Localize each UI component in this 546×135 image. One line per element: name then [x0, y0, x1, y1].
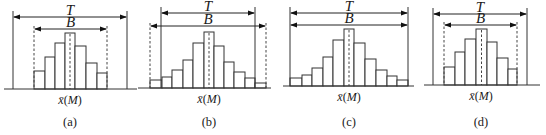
spread-B-dimension: B	[290, 10, 408, 28]
panel-caption: (b)	[202, 115, 217, 129]
histogram-bar	[497, 58, 508, 85]
histogram-bar	[444, 67, 455, 85]
histogram-bars	[150, 32, 266, 88]
panel-caption: (a)	[63, 115, 77, 129]
arrow-left-icon	[290, 22, 297, 27]
panel-caption: (c)	[342, 115, 356, 129]
histogram-bar	[302, 75, 312, 86]
histogram-bar	[172, 70, 183, 88]
histogram-bar	[75, 46, 86, 89]
mean-label: x̄(M)	[336, 90, 360, 104]
spread-B-label: B	[344, 10, 353, 26]
arrow-left-icon	[433, 11, 440, 16]
spread-B-label: B	[203, 11, 212, 27]
paren-close: )	[489, 89, 493, 103]
arrow-right-icon	[510, 22, 517, 27]
histogram-bar	[323, 57, 333, 86]
arrow-left-icon	[13, 14, 20, 19]
paren-close: )	[78, 93, 82, 107]
arrow-left-icon	[290, 10, 297, 15]
histogram-bar	[487, 42, 497, 85]
histogram-bar	[245, 78, 255, 88]
spread-B-label: B	[476, 10, 485, 26]
mean-label: x̄(M)	[196, 92, 220, 106]
histogram-bar	[55, 43, 65, 89]
histogram-bar	[508, 69, 517, 85]
histogram-bar	[234, 72, 245, 88]
arrow-right-icon	[401, 10, 408, 15]
arrow-right-icon	[520, 11, 527, 16]
histogram-bar	[150, 80, 162, 88]
arrow-left-icon	[150, 23, 157, 28]
mean-label: x̄(M)	[468, 89, 492, 103]
histogram-bar	[183, 60, 193, 88]
arrow-right-icon	[100, 26, 107, 31]
panel-d: TBx̄(M)(d)	[424, 0, 540, 129]
figure-canvas: TBx̄(M)(a)TBx̄(M)(b)TBx̄(M)(c)TBx̄(M)(d)	[0, 0, 546, 135]
histogram-bar	[290, 78, 302, 86]
arrow-left-icon	[444, 22, 451, 27]
arrow-right-icon	[120, 14, 127, 19]
histogram-bar	[224, 62, 234, 88]
histogram-bars	[444, 29, 517, 85]
arrow-right-icon	[248, 10, 255, 15]
spread-B-dimension: B	[34, 14, 107, 32]
spread-B-label: B	[66, 14, 75, 30]
histogram-bar	[312, 68, 323, 86]
panel-c: TBx̄(M)(c)	[283, 0, 414, 129]
spread-B-dimension: B	[444, 10, 517, 28]
histogram-bar	[34, 71, 45, 89]
paren-close: )	[357, 90, 361, 104]
mean-label: x̄(M)	[57, 93, 81, 107]
arrow-right-icon	[401, 22, 408, 27]
paren-close: )	[217, 92, 221, 106]
histogram-bar	[397, 80, 408, 86]
arrow-right-icon	[259, 23, 266, 28]
histogram-bar	[97, 73, 107, 89]
histogram-bar	[86, 63, 97, 89]
histogram-bar	[214, 46, 224, 88]
histogram-bar	[162, 77, 172, 88]
histogram-bar	[354, 43, 365, 86]
histogram-bar	[333, 40, 344, 86]
histogram-bar	[376, 70, 387, 86]
histogram-bar	[465, 39, 476, 85]
arrow-left-icon	[161, 10, 168, 15]
histogram-bar	[455, 52, 465, 85]
panel-b: TBx̄(M)(b)	[138, 0, 271, 129]
histogram-bar	[255, 83, 266, 88]
arrow-left-icon	[34, 26, 41, 31]
histogram-bar	[387, 76, 397, 86]
panel-caption: (d)	[474, 115, 489, 129]
histogram-comparison-figure: TBx̄(M)(a)TBx̄(M)(b)TBx̄(M)(c)TBx̄(M)(d)	[0, 0, 546, 135]
panel-a: TBx̄(M)(a)	[4, 2, 137, 130]
histogram-bar	[193, 43, 204, 88]
histogram-bar	[365, 59, 376, 86]
histogram-bar	[45, 57, 55, 89]
